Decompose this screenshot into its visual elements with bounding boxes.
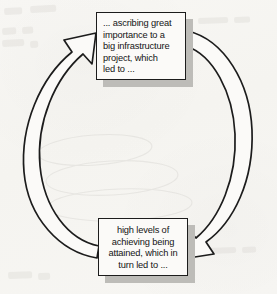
- node-top-line-2: importance to a: [103, 30, 181, 42]
- node-top-line-3: big infrastructure: [103, 41, 181, 53]
- node-top-line-5: led to ...: [103, 64, 181, 76]
- node-top-line-4: project, which: [103, 53, 181, 65]
- node-bottom-line-4: turn led to ...: [103, 260, 183, 272]
- node-bottom-line-3: attained, which in: [103, 248, 183, 260]
- node-bottom[interactable]: high levels of achieving being attained,…: [98, 218, 188, 276]
- node-bottom-line-1: high levels of: [103, 225, 183, 237]
- arrow-left-icon: [23, 33, 99, 258]
- node-top[interactable]: ... ascribing great importance to a big …: [96, 12, 186, 80]
- node-bottom-line-2: achieving being: [103, 237, 183, 249]
- diagram-canvas: ... ascribing great importance to a big …: [0, 0, 277, 294]
- node-top-line-1: ... ascribing great: [103, 18, 181, 30]
